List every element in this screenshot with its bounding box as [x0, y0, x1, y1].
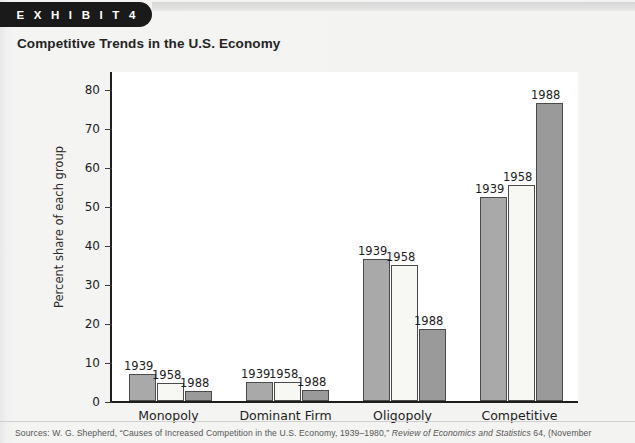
bar-oligopoly-1939	[363, 259, 390, 401]
y-axis-tick	[105, 363, 112, 364]
bar-value-label: 1939	[475, 184, 504, 196]
bar-value-label: 1958	[152, 370, 181, 382]
y-axis-label: 10	[60, 357, 100, 369]
source-note: Sources: W. G. Shepherd, “Causes of Incr…	[15, 428, 633, 438]
source-divider	[0, 421, 635, 422]
bar-chart: Percent share of each group 010203040506…	[0, 60, 635, 420]
banner-tail-stripe	[152, 2, 635, 11]
y-axis-label: 80	[60, 84, 100, 96]
bar-dominant-firm-1988	[302, 390, 329, 401]
y-axis-label: 60	[60, 162, 100, 174]
exhibit-banner: E X H I B I T 4	[0, 2, 152, 27]
y-axis-tick	[105, 129, 112, 130]
page-title: Competitive Trends in the U.S. Economy	[17, 36, 280, 51]
y-axis-label: 20	[60, 318, 100, 330]
bar-dominant-firm-1939	[246, 382, 273, 401]
bar-value-label: 1988	[180, 378, 209, 390]
y-axis-tick	[105, 402, 112, 403]
y-axis-tick	[105, 207, 112, 208]
bar-value-label: 1939	[241, 369, 270, 381]
y-axis-label: 70	[60, 123, 100, 135]
plot-area	[110, 72, 578, 403]
bar-competitive-1958	[508, 185, 535, 401]
bar-oligopoly-1958	[391, 265, 418, 401]
bar-monopoly-1988	[185, 391, 212, 401]
bar-value-label: 1958	[269, 369, 298, 381]
y-axis-title: Percent share of each group	[52, 127, 66, 327]
bar-competitive-1939	[480, 197, 507, 401]
y-axis-label: 0	[60, 396, 100, 408]
bar-value-label: 1939	[358, 246, 387, 258]
y-axis-label: 40	[60, 240, 100, 252]
y-axis-label: 30	[60, 279, 100, 291]
y-axis-tick	[105, 90, 112, 91]
bar-competitive-1988	[536, 103, 563, 401]
bar-value-label: 1988	[297, 377, 326, 389]
y-axis-label: 50	[60, 201, 100, 213]
source-journal-title: Review of Economics and Statistics	[392, 428, 531, 438]
bar-value-label: 1958	[386, 252, 415, 264]
bar-value-label: 1988	[531, 90, 560, 102]
y-axis-tick	[105, 324, 112, 325]
bar-value-label: 1958	[503, 172, 532, 184]
bar-value-label: 1988	[414, 316, 443, 328]
exhibit-banner-label: E X H I B I T 4	[13, 9, 138, 21]
y-axis-tick	[105, 168, 112, 169]
bar-oligopoly-1988	[419, 329, 446, 401]
y-axis-tick	[105, 285, 112, 286]
y-axis-tick	[105, 246, 112, 247]
bar-value-label: 1939	[124, 361, 153, 373]
